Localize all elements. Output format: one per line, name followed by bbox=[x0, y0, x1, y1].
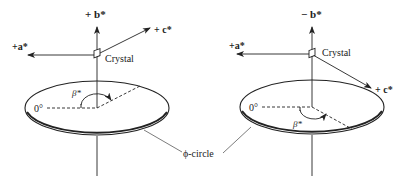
phi-circle-diagram: + b* +a* + c* Crystal 0° β* − b* +a* + c… bbox=[0, 0, 410, 176]
c-projection-line bbox=[97, 86, 140, 108]
crystal-label: Crystal bbox=[322, 47, 351, 58]
beta-star-label: β* bbox=[71, 88, 81, 98]
phi-circle-callout: ϕ-circle bbox=[144, 127, 251, 159]
a-axis-label: +a* bbox=[229, 40, 245, 51]
b-axis-label: − b* bbox=[301, 8, 322, 20]
c-axis-label: + c* bbox=[154, 24, 172, 35]
leader-line-right bbox=[223, 127, 251, 153]
leader-line-left bbox=[144, 130, 182, 152]
right-panel: − b* +a* + c* Crystal 0° β* bbox=[229, 8, 393, 176]
c-axis-label: + c* bbox=[375, 84, 393, 95]
crystal-label: Crystal bbox=[105, 53, 134, 64]
c-axis-line bbox=[98, 28, 150, 54]
c-axis-line bbox=[313, 55, 371, 88]
zero-degree-label: 0° bbox=[34, 103, 43, 114]
crystal-icon bbox=[309, 48, 315, 57]
beta-star-label: β* bbox=[292, 119, 302, 129]
c-projection-line bbox=[312, 107, 352, 129]
zero-degree-label: 0° bbox=[249, 102, 258, 113]
a-axis-label: +a* bbox=[12, 41, 28, 52]
b-axis-label: + b* bbox=[85, 8, 106, 20]
beta-angle-arc bbox=[300, 110, 326, 119]
left-panel: + b* +a* + c* Crystal 0° β* bbox=[12, 8, 172, 176]
crystal-icon bbox=[94, 49, 100, 58]
phi-circle-label: ϕ-circle bbox=[183, 148, 214, 159]
